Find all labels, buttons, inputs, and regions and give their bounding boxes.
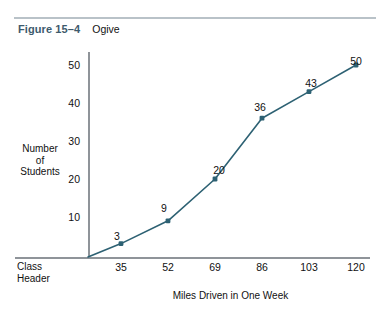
ogive-chart: 10 20 30 40 50 Number of Students 35 52 … bbox=[0, 0, 390, 310]
point-label-5: 50 bbox=[343, 56, 369, 67]
data-point-69 bbox=[213, 177, 218, 182]
series-markers bbox=[119, 63, 359, 246]
point-label-0: 3 bbox=[104, 231, 130, 242]
data-point-52 bbox=[166, 218, 171, 223]
series-ogive bbox=[0, 0, 390, 310]
point-label-1: 9 bbox=[151, 203, 177, 214]
point-label-4: 43 bbox=[298, 78, 324, 89]
series-line bbox=[88, 65, 356, 257]
point-label-2: 20 bbox=[206, 165, 232, 176]
data-point-103 bbox=[307, 89, 312, 94]
data-point-86 bbox=[260, 116, 265, 121]
point-label-3: 36 bbox=[247, 102, 273, 113]
